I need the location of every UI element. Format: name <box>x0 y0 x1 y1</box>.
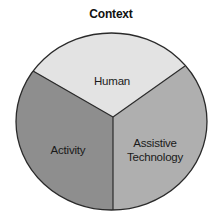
label-assistive-line1: Assistive <box>122 136 188 150</box>
context-pie-diagram <box>0 0 222 223</box>
label-human: Human <box>82 74 142 88</box>
label-assistive-technology: Assistive Technology <box>122 136 188 164</box>
label-activity: Activity <box>40 143 96 157</box>
label-activity-text: Activity <box>51 144 86 156</box>
label-assistive-line2: Technology <box>122 150 188 164</box>
label-human-text: Human <box>94 75 130 87</box>
